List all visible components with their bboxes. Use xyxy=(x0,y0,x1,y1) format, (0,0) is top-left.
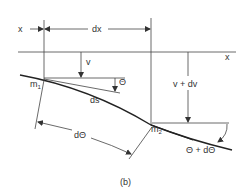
ds-label: ds xyxy=(90,95,100,105)
theta-plus-dtheta-arc xyxy=(218,124,227,142)
x-left-label: x xyxy=(18,24,23,34)
m2-radial-line xyxy=(129,127,152,159)
dtheta-label: dΘ xyxy=(74,130,86,140)
dx-label: dx xyxy=(92,24,102,34)
m1-label: m1 xyxy=(30,79,42,90)
m2-label: m2 xyxy=(151,124,163,135)
theta-plus-dtheta-label: Θ + dΘ xyxy=(186,145,215,155)
m1-tangent-line xyxy=(44,79,120,93)
x-axis-label: x xyxy=(225,52,230,62)
v-plus-dv-label: v + dv xyxy=(173,79,198,89)
v-label: v xyxy=(86,57,91,67)
theta-label: Θ xyxy=(119,77,126,87)
dtheta-arc-right xyxy=(91,138,131,154)
figure-caption: (b) xyxy=(120,177,131,187)
dtheta-arc-left xyxy=(38,122,72,130)
beam-deflection-diagram: x dx x v v + dv Θ Θ + dΘ dΘ m1 m2 ds (b) xyxy=(0,0,242,193)
